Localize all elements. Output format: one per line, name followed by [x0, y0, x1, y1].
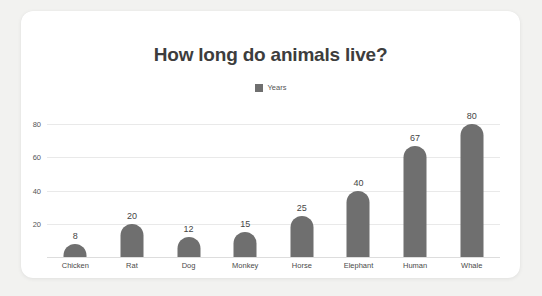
bar-rat[interactable] [120, 224, 143, 257]
bar-chicken[interactable] [64, 244, 87, 257]
bar-value-label-chicken: 8 [73, 231, 78, 241]
x-tick-label-elephant: Elephant [344, 261, 374, 270]
bar-group: 15Monkey [217, 111, 274, 257]
bar-group: 40Elephant [330, 111, 387, 257]
chart-legend: Years [21, 83, 520, 92]
legend-label-years: Years [268, 83, 287, 92]
bar-value-label-dog: 12 [184, 224, 194, 234]
bar-value-label-whale: 80 [467, 111, 477, 121]
bar-value-label-horse: 25 [297, 203, 307, 213]
bar-elephant[interactable] [347, 191, 370, 257]
bar-group: 25Horse [274, 111, 331, 257]
bar-group: 67Human [387, 111, 444, 257]
bar-whale[interactable] [460, 124, 483, 257]
bar-human[interactable] [404, 146, 427, 257]
chart-title: How long do animals live? [21, 44, 520, 66]
plot-area: 20406080 8Chicken20Rat12Dog15Monkey25Hor… [47, 111, 500, 257]
y-tick-label-60: 60 [23, 153, 41, 162]
legend-swatch-years [255, 84, 263, 92]
bar-value-label-rat: 20 [127, 211, 137, 221]
x-tick-label-chicken: Chicken [62, 261, 89, 270]
y-tick-label-20: 20 [23, 219, 41, 228]
bar-value-label-elephant: 40 [353, 178, 363, 188]
chart-card: How long do animals live? Years 20406080… [21, 11, 520, 278]
y-tick-label-80: 80 [23, 120, 41, 129]
bar-group: 80Whale [443, 111, 500, 257]
bar-monkey[interactable] [234, 232, 257, 257]
x-tick-label-dog: Dog [182, 261, 196, 270]
x-tick-label-human: Human [403, 261, 427, 270]
bar-value-label-human: 67 [410, 133, 420, 143]
bar-group: 8Chicken [47, 111, 104, 257]
bar-series-years: 8Chicken20Rat12Dog15Monkey25Horse40Eleph… [47, 111, 500, 257]
x-tick-label-rat: Rat [126, 261, 138, 270]
bar-value-label-monkey: 15 [240, 219, 250, 229]
y-tick-label-40: 40 [23, 186, 41, 195]
bar-horse[interactable] [290, 216, 313, 257]
bar-group: 20Rat [104, 111, 161, 257]
x-tick-label-whale: Whale [461, 261, 482, 270]
x-axis-line [47, 257, 500, 258]
x-tick-label-monkey: Monkey [232, 261, 258, 270]
x-tick-label-horse: Horse [292, 261, 312, 270]
bar-group: 12Dog [160, 111, 217, 257]
bar-dog[interactable] [177, 237, 200, 257]
